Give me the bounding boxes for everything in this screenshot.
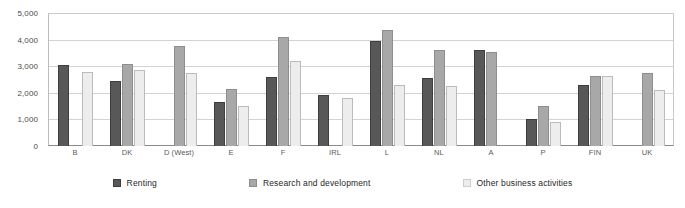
bar[interactable] [446,86,457,146]
bar-group [205,14,257,146]
y-tick-label: 1,000 [17,115,38,124]
bar-group [569,14,621,146]
bar-slot [318,14,329,146]
bar[interactable] [382,30,393,146]
bar-slot [590,14,601,146]
bar[interactable] [550,122,561,146]
bar[interactable] [110,81,121,146]
bar-slot [82,14,93,146]
x-tick-label: NL [413,148,465,157]
bar-group [517,14,569,146]
bar[interactable] [266,77,277,146]
y-axis: 01,0002,0003,0004,0005,000 [0,0,44,208]
bar[interactable] [290,61,301,146]
legend-item[interactable]: Renting [113,178,157,188]
legend-label: Research and development [263,178,371,188]
bar-slot [214,14,225,146]
bar-group [413,14,465,146]
bar-slot [342,14,353,146]
bar[interactable] [590,76,601,146]
y-tick-label: 3,000 [17,62,38,71]
legend-swatch-icon [249,179,257,187]
bar[interactable] [186,73,197,146]
bar[interactable] [318,95,329,146]
bar-slot [330,14,341,146]
bar[interactable] [122,64,133,146]
bar-slot [394,14,405,146]
bar[interactable] [602,76,613,146]
bar-group [49,14,101,146]
bar[interactable] [654,90,665,146]
bar-groups [49,14,673,146]
x-tick-label: UK [621,148,673,157]
bar-slot [226,14,237,146]
x-tick-label: F [257,148,309,157]
bar-group [153,14,205,146]
bar[interactable] [526,119,537,146]
bar-group [621,14,673,146]
chart-legend: RentingResearch and developmentOther bus… [0,178,685,188]
bar[interactable] [134,70,145,146]
bar-slot [630,14,641,146]
y-tick-label: 2,000 [17,88,38,97]
bar-group [257,14,309,146]
legend-item[interactable]: Research and development [249,178,371,188]
bar-slot [422,14,433,146]
bar-slot [162,14,173,146]
x-tick-label: L [361,148,413,157]
x-tick-label: D (West) [153,148,205,157]
bar[interactable] [82,72,93,146]
bar[interactable] [422,78,433,146]
bar[interactable] [394,85,405,146]
bar[interactable] [486,52,497,146]
bar-slot [122,14,133,146]
x-tick-label: FIN [569,148,621,157]
bar-group [361,14,413,146]
bar-slot [602,14,613,146]
bar-slot [134,14,145,146]
bar[interactable] [538,106,549,146]
bar-slot [654,14,665,146]
bar-slot [578,14,589,146]
bar-slot [382,14,393,146]
x-tick-label: IRL [309,148,361,157]
bar[interactable] [342,98,353,146]
bar-slot [186,14,197,146]
bar[interactable] [642,73,653,146]
bar-slot [110,14,121,146]
bar[interactable] [174,46,185,146]
bar-slot [266,14,277,146]
bar[interactable] [474,50,485,146]
bar-slot [58,14,69,146]
bar-slot [434,14,445,146]
bar-slot [550,14,561,146]
legend-label: Other business activities [477,178,573,188]
x-tick-label: E [205,148,257,157]
bar-slot [474,14,485,146]
bar-slot [526,14,537,146]
legend-item[interactable]: Other business activities [463,178,573,188]
bar[interactable] [214,102,225,146]
bar-slot [538,14,549,146]
bar-slot [486,14,497,146]
bar[interactable] [226,89,237,146]
legend-swatch-icon [463,179,471,187]
x-tick-label: DK [101,148,153,157]
bar-slot [370,14,381,146]
bar[interactable] [370,41,381,146]
x-tick-label: P [517,148,569,157]
x-tick-label: A [465,148,517,157]
bar-slot [238,14,249,146]
bar[interactable] [434,50,445,146]
bar[interactable] [278,37,289,146]
legend-label: Renting [127,178,157,188]
bar-group [309,14,361,146]
bar-slot [278,14,289,146]
x-axis: BDKD (West)EFIRLLNLAPFINUK [49,148,673,157]
bar[interactable] [238,106,249,146]
bar[interactable] [578,85,589,146]
y-tick-label: 4,000 [17,35,38,44]
y-tick-label: 5,000 [17,9,38,18]
bar[interactable] [58,65,69,146]
bar-chart: 01,0002,0003,0004,0005,000 BDKD (West)EF… [0,0,685,208]
